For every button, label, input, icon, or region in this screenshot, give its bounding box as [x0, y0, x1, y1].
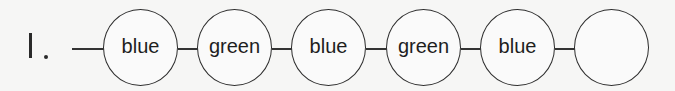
lead-connector: [72, 48, 104, 50]
sequence-node-5: blue: [480, 9, 555, 86]
pattern-diagram: blue green blue green blue: [0, 0, 675, 91]
node-label: blue: [310, 35, 348, 58]
sequence-node-4: green: [386, 9, 461, 86]
connector-1-2: [178, 48, 199, 50]
connector-3-4: [366, 48, 387, 50]
connector-5-6: [555, 48, 576, 50]
sequence-node-2: green: [197, 9, 272, 86]
node-label: blue: [499, 35, 537, 58]
node-label: green: [209, 35, 260, 58]
node-label: blue: [122, 35, 160, 58]
node-label: green: [398, 35, 449, 58]
sequence-node-3: blue: [291, 9, 366, 86]
problem-number-period: [44, 55, 48, 59]
sequence-node-1: blue: [103, 9, 178, 86]
problem-number-one: [29, 33, 32, 58]
sequence-node-6-blank[interactable]: [574, 9, 649, 86]
connector-2-3: [272, 48, 293, 50]
connector-4-5: [461, 48, 482, 50]
